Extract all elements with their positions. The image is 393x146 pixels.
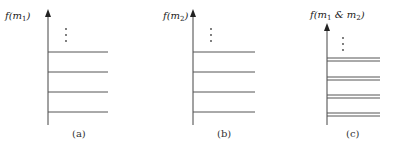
ellipsis-icon [210, 28, 212, 42]
panel-b: f(m2) (b) [162, 9, 255, 139]
panel-c: f(m1 & m2) (c) [309, 9, 380, 139]
level-lines-c [327, 58, 380, 116]
axis-label-a: f(m1) [4, 10, 31, 23]
arrow-icon [45, 9, 51, 17]
caption-a: (a) [72, 128, 86, 139]
ellipsis-icon [342, 37, 344, 51]
panel-a: f(m1) (a) [4, 9, 108, 139]
arrow-icon [190, 9, 196, 17]
level-lines-b [193, 52, 255, 112]
axis-label-c: f(m1 & m2) [309, 9, 365, 22]
caption-c: (c) [346, 128, 360, 139]
level-lines-a [48, 52, 108, 112]
ellipsis-icon [65, 28, 67, 42]
axis-label-b: f(m2) [162, 10, 189, 23]
caption-b: (b) [217, 128, 231, 139]
arrow-icon [324, 23, 330, 31]
energy-level-diagram: f(m1) (a) f(m2) (b) f(m1 & m2) [0, 0, 393, 146]
